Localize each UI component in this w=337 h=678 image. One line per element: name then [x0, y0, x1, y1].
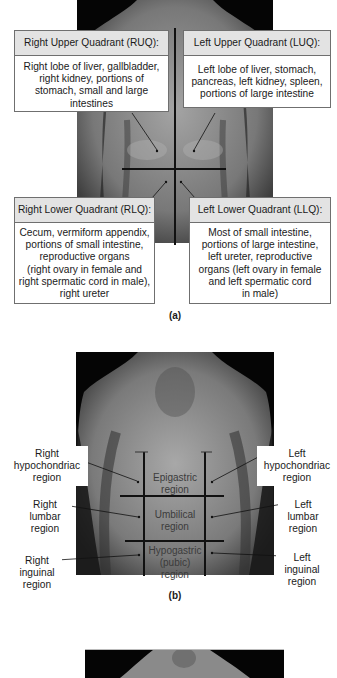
label-line: (pubic) — [140, 557, 210, 569]
label-line: inguinal — [276, 564, 328, 576]
label-line: lumbar — [278, 511, 328, 523]
label-line: inguinal — [12, 567, 62, 579]
rlq-line: right spermatic cord in male), — [18, 276, 151, 288]
torso-silhouette-c — [85, 650, 284, 678]
left-lumbar-label: Left lumbar region — [278, 499, 328, 535]
right-lumbar-label: Right lumbar region — [18, 499, 72, 535]
label-line: region — [276, 576, 328, 588]
label-line: region — [12, 579, 62, 591]
rlq-line: right ureter — [18, 288, 151, 300]
rlq-box: Right Lower Quadrant (RLQ): Cecum, vermi… — [14, 197, 155, 304]
rlq-contents: Cecum, vermiform appendix, portions of s… — [15, 223, 154, 305]
label-line: hypochondriac — [257, 460, 337, 472]
label-line: Hypogastric — [140, 545, 210, 557]
llq-line: organs (left ovary in female — [193, 264, 327, 276]
torso-silhouette-b — [76, 352, 274, 575]
umbilical-region-label: Umbilical region — [140, 509, 210, 533]
torso-photo-regions — [76, 352, 274, 575]
left-inguinal-label: Left inguinal region — [276, 552, 328, 588]
label-line: Left — [278, 499, 328, 511]
llq-contents: Most of small intestine, portions of lar… — [190, 223, 330, 305]
right-inguinal-label: Right inguinal region — [12, 555, 62, 591]
figure-b-label: (b) — [160, 590, 190, 601]
label-line: region — [6, 472, 88, 484]
rlq-line: reproductive organs — [18, 251, 151, 263]
left-hypochondriac-label: Left hypochondriac region — [257, 446, 337, 486]
label-line: Left — [257, 448, 337, 460]
label-line: region — [140, 484, 210, 496]
label-line: region — [140, 521, 210, 533]
label-line: Right — [18, 499, 72, 511]
label-line: lumbar — [18, 511, 72, 523]
llq-title: Left Lower Quadrant (LLQ): — [190, 198, 330, 223]
label-line: region — [140, 569, 210, 581]
label-line: Right — [6, 448, 88, 460]
label-line: Left — [276, 552, 328, 564]
ruq-title: Right Upper Quadrant (RUQ): — [15, 31, 168, 56]
label-line: region — [18, 523, 72, 535]
luq-title: Left Upper Quadrant (LUQ): — [184, 31, 330, 56]
llq-line: left ureter, reproductive — [193, 251, 327, 263]
figure-a-label: (a) — [160, 310, 190, 321]
llq-line: in male) — [193, 288, 327, 300]
label-line: region — [278, 523, 328, 535]
label-line: Epigastric — [140, 472, 210, 484]
luq-contents: Left lobe of liver, stomach, pancreas, l… — [184, 56, 330, 106]
hypogastric-region-label: Hypogastric (pubic) region — [140, 545, 210, 581]
llq-line: and left spermatic cord — [193, 276, 327, 288]
rlq-line: portions of small intestine, — [18, 239, 151, 251]
epigastric-region-label: Epigastric region — [140, 472, 210, 496]
label-line: Umbilical — [140, 509, 210, 521]
ruq-box: Right Upper Quadrant (RUQ): Right lobe o… — [14, 30, 169, 112]
rlq-title: Right Lower Quadrant (RLQ): — [15, 198, 154, 223]
ruq-contents: Right lobe of liver, gallbladder, right … — [15, 56, 168, 115]
llq-box: Left Lower Quadrant (LLQ): Most of small… — [189, 197, 331, 304]
label-line: region — [257, 472, 337, 484]
label-line: hypochondriac — [6, 460, 88, 472]
llq-line: Most of small intestine, — [193, 227, 327, 239]
rlq-line: Cecum, vermiform appendix, — [18, 227, 151, 239]
luq-box: Left Upper Quadrant (LUQ): Left lobe of … — [183, 30, 331, 108]
right-hypochondriac-label: Right hypochondriac region — [6, 446, 88, 486]
llq-line: portions of large intestine, — [193, 239, 327, 251]
torso-photo-partial — [85, 649, 284, 678]
label-line: Right — [12, 555, 62, 567]
rlq-line: (right ovary in female and — [18, 264, 151, 276]
